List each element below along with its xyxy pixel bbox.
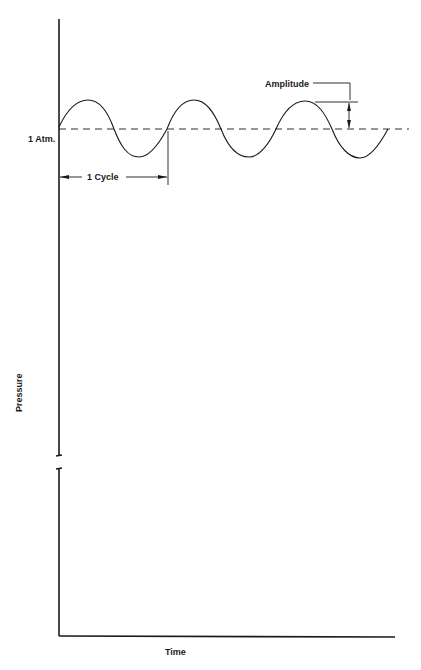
x-axis	[59, 636, 395, 637]
y-axis-break-tick-upper	[56, 455, 62, 456]
x-axis-label: Time	[165, 647, 186, 657]
amplitude-label: Amplitude	[265, 79, 309, 89]
y-axis-label: Pressure	[14, 373, 24, 412]
cycle-label: 1 Cycle	[87, 172, 119, 182]
amplitude-arrowhead-down-icon	[347, 120, 351, 128]
cycle-arrowhead-left-icon	[60, 175, 69, 179]
cycle-arrowhead-right-icon	[158, 175, 167, 179]
pressure-wave-diagram: 1 Cycle Amplitude 1 Atm. Pressure Time	[0, 0, 421, 670]
amplitude-leader-line	[313, 83, 350, 100]
amplitude-arrowhead-up-icon	[347, 103, 351, 111]
reference-label: 1 Atm.	[28, 134, 55, 144]
